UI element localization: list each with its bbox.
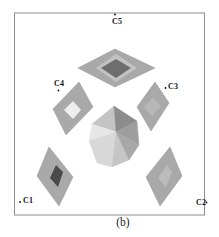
label-c3: C3 [168, 83, 178, 91]
label-c4: C4 [54, 80, 64, 88]
marker-c5 [114, 14, 116, 16]
marker-c1 [19, 201, 21, 203]
label-c5: C5 [112, 18, 122, 26]
label-c2: C2 [196, 199, 206, 207]
figure-caption: (b) [116, 216, 129, 229]
figure-panel: C5 C4 C3 C1 C2 (b) [0, 0, 219, 237]
marker-c4 [58, 90, 60, 92]
label-c1: C1 [23, 197, 33, 205]
marker-c3 [165, 87, 167, 89]
